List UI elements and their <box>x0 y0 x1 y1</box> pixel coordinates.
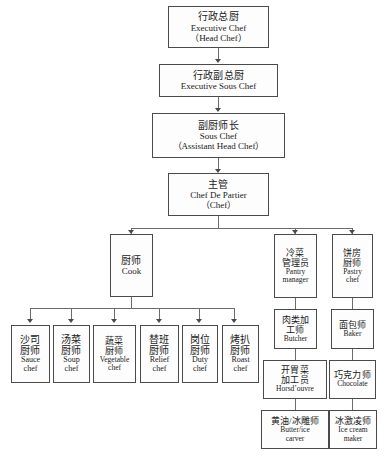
node-label-en: Chocolate <box>337 380 367 388</box>
connector-pantry-to-butcher <box>295 298 296 309</box>
node-label-cn: 烤扒 <box>230 334 250 345</box>
node-label-en: Butcher <box>284 335 308 343</box>
node-cook[interactable]: 厨师 Cook <box>110 234 153 297</box>
node-butter-ice-carver[interactable]: 黄油/冰雕师 Butter/ice carver <box>261 410 329 449</box>
node-butcher[interactable]: 肉类加 工师 Butcher <box>274 309 317 349</box>
node-label-cn: 肉类加 <box>282 315 310 325</box>
node-label-cn: 开胃菜 <box>281 365 309 375</box>
node-label-cn: 行政总厨 <box>198 11 239 22</box>
node-soup-chef[interactable]: 汤菜 厨师 Soup chef <box>53 325 90 383</box>
node-label-cn: 副厨师长 <box>198 120 239 131</box>
node-label-en2: manager <box>283 276 309 284</box>
arrow-cook-to-soup <box>68 319 74 323</box>
node-label-cn: 替班 <box>149 334 169 345</box>
node-label-cn: 岗位 <box>190 334 210 345</box>
connector-horsdouvre-to-butter <box>295 399 296 410</box>
arrow-cook-to-relief <box>156 319 162 323</box>
node-label-cn: 饼房 <box>343 248 361 258</box>
node-label-cn: 主管 <box>208 179 228 190</box>
node-sauce-chef[interactable]: 沙司 厨师 Sauce chef <box>11 325 50 383</box>
node-executive-chef[interactable]: 行政总厨 Executive Chef （Head Chef） <box>168 6 269 48</box>
node-label-en2: chef <box>346 276 359 284</box>
node-label-en: Baker <box>344 330 362 338</box>
arrow-cook-to-roast <box>231 319 237 323</box>
connector-chocolate-to-icecream <box>352 399 353 410</box>
node-chef-de-partier[interactable]: 主管 Chef De Partier （Chef） <box>168 173 269 216</box>
node-chocolate[interactable]: 巧克力师 Chocolate <box>329 360 376 399</box>
node-label-cn: 冷菜 <box>286 248 304 258</box>
node-pastry-chef[interactable]: 饼房 厨师 Pastry chef <box>332 234 373 298</box>
node-duty-chef[interactable]: 岗位 厨师 Duty chef <box>182 325 218 383</box>
connector-pastry-to-baker <box>352 298 353 309</box>
node-label-en2: maker <box>344 435 363 443</box>
node-label-en2: （Assistant Head Chef） <box>173 141 265 151</box>
arrow-sous-to-souschef <box>215 108 221 112</box>
connector-butcher-to-horsdouvre <box>295 349 296 360</box>
node-label-en2: （Chef） <box>201 200 237 210</box>
node-label-en: Horsd’ouvre <box>276 385 314 393</box>
node-roast-chef[interactable]: 烤扒 厨师 Roast chef <box>222 325 259 383</box>
node-ice-cream-maker[interactable]: 冰激凌师 Ice cream maker <box>329 410 377 449</box>
node-label-cn: 行政副总厨 <box>193 70 244 81</box>
node-label-en2: chef <box>108 364 121 372</box>
node-label-en2: chef <box>65 365 79 374</box>
node-executive-sous-chef[interactable]: 行政副总厨 Executive Sous Chef <box>159 64 278 97</box>
node-label-cn: 汤菜 <box>61 334 81 345</box>
arrow-cook-to-duty <box>196 319 202 323</box>
node-label-cn: 沙司 <box>20 334 40 345</box>
node-label-en2: chef <box>193 365 207 374</box>
node-vegetable-chef[interactable]: 蔬菜 厨师 Vegetable chef <box>93 325 136 383</box>
node-label-en2: chef <box>153 365 167 374</box>
node-sous-chef[interactable]: 副厨师长 Sous Chef （Assistant Head Chef） <box>152 113 285 158</box>
node-label-en: Sous Chef <box>200 131 237 141</box>
node-label-cn: 蔬菜 <box>105 336 123 346</box>
node-relief-chef[interactable]: 替班 厨师 Relief chef <box>140 325 179 383</box>
node-label-en2: carver <box>286 435 305 443</box>
node-label-en: Cook <box>122 266 142 276</box>
node-label-en2: chef <box>234 365 248 374</box>
arrow-cook-to-sauce <box>27 319 33 323</box>
node-label-en2: （Head Chef） <box>190 33 247 43</box>
node-label-cn: 厨师 <box>121 255 141 266</box>
arrow-cook-to-vegetable <box>111 319 117 323</box>
org-chart: 行政总厨 Executive Chef （Head Chef） 行政副总厨 Ex… <box>0 0 391 457</box>
connector-partier-bus <box>131 228 352 229</box>
arrow-exec-to-sous <box>215 59 221 63</box>
connector-cook-bus <box>30 308 234 309</box>
node-horsdouvre[interactable]: 开胃菜 加工员 Horsd’ouvre <box>263 360 327 399</box>
node-baker[interactable]: 面包师 Baker <box>331 309 374 349</box>
node-pantry-manager[interactable]: 冷菜 管理员 Pantry manager <box>274 234 317 298</box>
connector-baker-to-chocolate <box>352 349 353 360</box>
node-label-en: Chef De Partier <box>190 190 246 200</box>
node-label-en: Executive Chef <box>191 23 247 33</box>
node-label-en2: chef <box>24 365 38 374</box>
node-label-en: Executive Sous Chef <box>181 81 257 91</box>
